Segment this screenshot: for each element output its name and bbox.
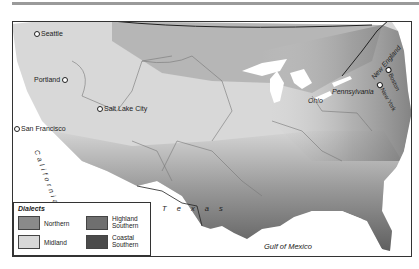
legend-title: Dialects [18,205,45,212]
label-gulf-of-mexico: Gulf of Mexico [264,242,312,251]
region-pennsylvania: Pennsylvania [332,88,374,95]
legend: Dialects Northern Midland HighlandSouthe… [13,202,151,256]
legend-label-coastal-southern: CoastalSouthern [112,234,138,248]
city-marker-icon [97,106,103,112]
city-marker-icon [34,31,40,37]
legend-swatch-coastal-southern [86,235,108,249]
legend-label-midland: Midland [44,239,67,246]
legend-label-highland-southern: HighlandSouthern [112,215,138,229]
city-san-francisco: San Francisco [14,125,66,132]
city-marker-icon [62,77,68,83]
city-portland: Portland [34,76,69,83]
top-rule [12,2,419,5]
legend-swatch-midland [18,235,40,249]
legend-swatch-highland-southern [86,216,108,230]
region-texas: T e x a s [162,204,227,213]
legend-label-northern: Northern [44,220,69,227]
legend-swatch-northern [18,216,40,230]
city-marker-icon [14,126,20,132]
city-seattle: Seattle [34,30,63,37]
region-ohio: Ohio [308,97,323,104]
city-salt-lake-city: Salt Lake City [97,105,147,112]
